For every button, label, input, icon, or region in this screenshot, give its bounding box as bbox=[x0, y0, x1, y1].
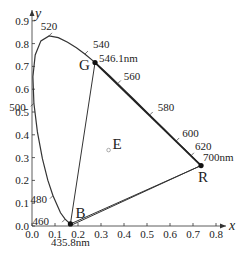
x-tick-label: 0.6 bbox=[163, 228, 177, 240]
wavelength-label-500: 500 bbox=[9, 101, 26, 113]
primary-wavelength-r: 700nm bbox=[203, 151, 234, 163]
wavelength-tick bbox=[62, 219, 65, 222]
y-tick-label: 0.0 bbox=[15, 220, 29, 232]
wavelength-label-560: 560 bbox=[124, 70, 141, 82]
y-tick-label: 0.6 bbox=[15, 83, 29, 95]
y-tick-label: 0.7 bbox=[15, 60, 29, 72]
x-tick-label: 0.4 bbox=[117, 228, 131, 240]
wavelength-tick bbox=[191, 153, 194, 156]
y-axis-arrow-icon bbox=[30, 10, 35, 16]
wavelength-tick bbox=[85, 51, 88, 54]
x-tick-label: 0.3 bbox=[94, 228, 108, 240]
wavelength-tick bbox=[150, 112, 153, 115]
primary-point-B bbox=[68, 221, 73, 226]
primary-wavelength-b: 435.8nm bbox=[51, 236, 90, 248]
wavelength-label-600: 600 bbox=[182, 127, 199, 139]
gamut-triangle bbox=[70, 63, 201, 224]
y-tick-label: 0.2 bbox=[15, 174, 29, 186]
x-axis-label: x bbox=[228, 218, 236, 233]
cie-chromaticity-diagram: xy0.00.10.20.30.40.50.60.70.80.00.10.20.… bbox=[0, 0, 244, 257]
y-tick-label: 0.8 bbox=[15, 38, 29, 50]
wavelength-label-580: 580 bbox=[158, 101, 175, 113]
spectral-locus bbox=[33, 36, 201, 225]
y-tick-label: 0.4 bbox=[15, 129, 29, 141]
wavelength-tick bbox=[176, 138, 179, 141]
x-tick-label: 0.5 bbox=[140, 228, 154, 240]
wavelength-label-520: 520 bbox=[41, 20, 58, 32]
axes: xy0.00.10.20.30.40.50.60.70.80.00.10.20.… bbox=[15, 6, 236, 240]
x-tick-label: 0.7 bbox=[186, 228, 200, 240]
wavelength-tick bbox=[50, 196, 53, 199]
labels: 460480500520540560580600620G546.1nmR700n… bbox=[9, 20, 234, 248]
wavelength-tick bbox=[49, 33, 52, 36]
primary-label-g: G bbox=[79, 57, 90, 73]
white-point-marker bbox=[107, 148, 111, 152]
spectral-locus-curve bbox=[33, 36, 201, 225]
wavelength-label-480: 480 bbox=[30, 193, 47, 205]
primary-wavelength-g: 546.1nm bbox=[99, 52, 138, 64]
y-tick-label: 0.9 bbox=[15, 15, 29, 27]
primary-label-b: B bbox=[75, 205, 85, 221]
rgb-gamut-triangle bbox=[68, 60, 204, 227]
wavelength-label-460: 460 bbox=[33, 215, 50, 227]
y-tick-label: 0.3 bbox=[15, 152, 29, 164]
green-red-edge bbox=[95, 63, 201, 166]
y-tick-label: 0.1 bbox=[15, 197, 29, 209]
y-axis-label: y bbox=[33, 6, 42, 21]
white-point-label: E bbox=[113, 136, 122, 152]
primary-point-R bbox=[198, 163, 203, 168]
wavelength-label-540: 540 bbox=[93, 38, 110, 50]
wavelength-tick bbox=[118, 81, 121, 84]
primary-point-G bbox=[92, 60, 97, 65]
x-tick-label: 0.8 bbox=[209, 228, 223, 240]
primary-label-r: R bbox=[198, 169, 208, 185]
